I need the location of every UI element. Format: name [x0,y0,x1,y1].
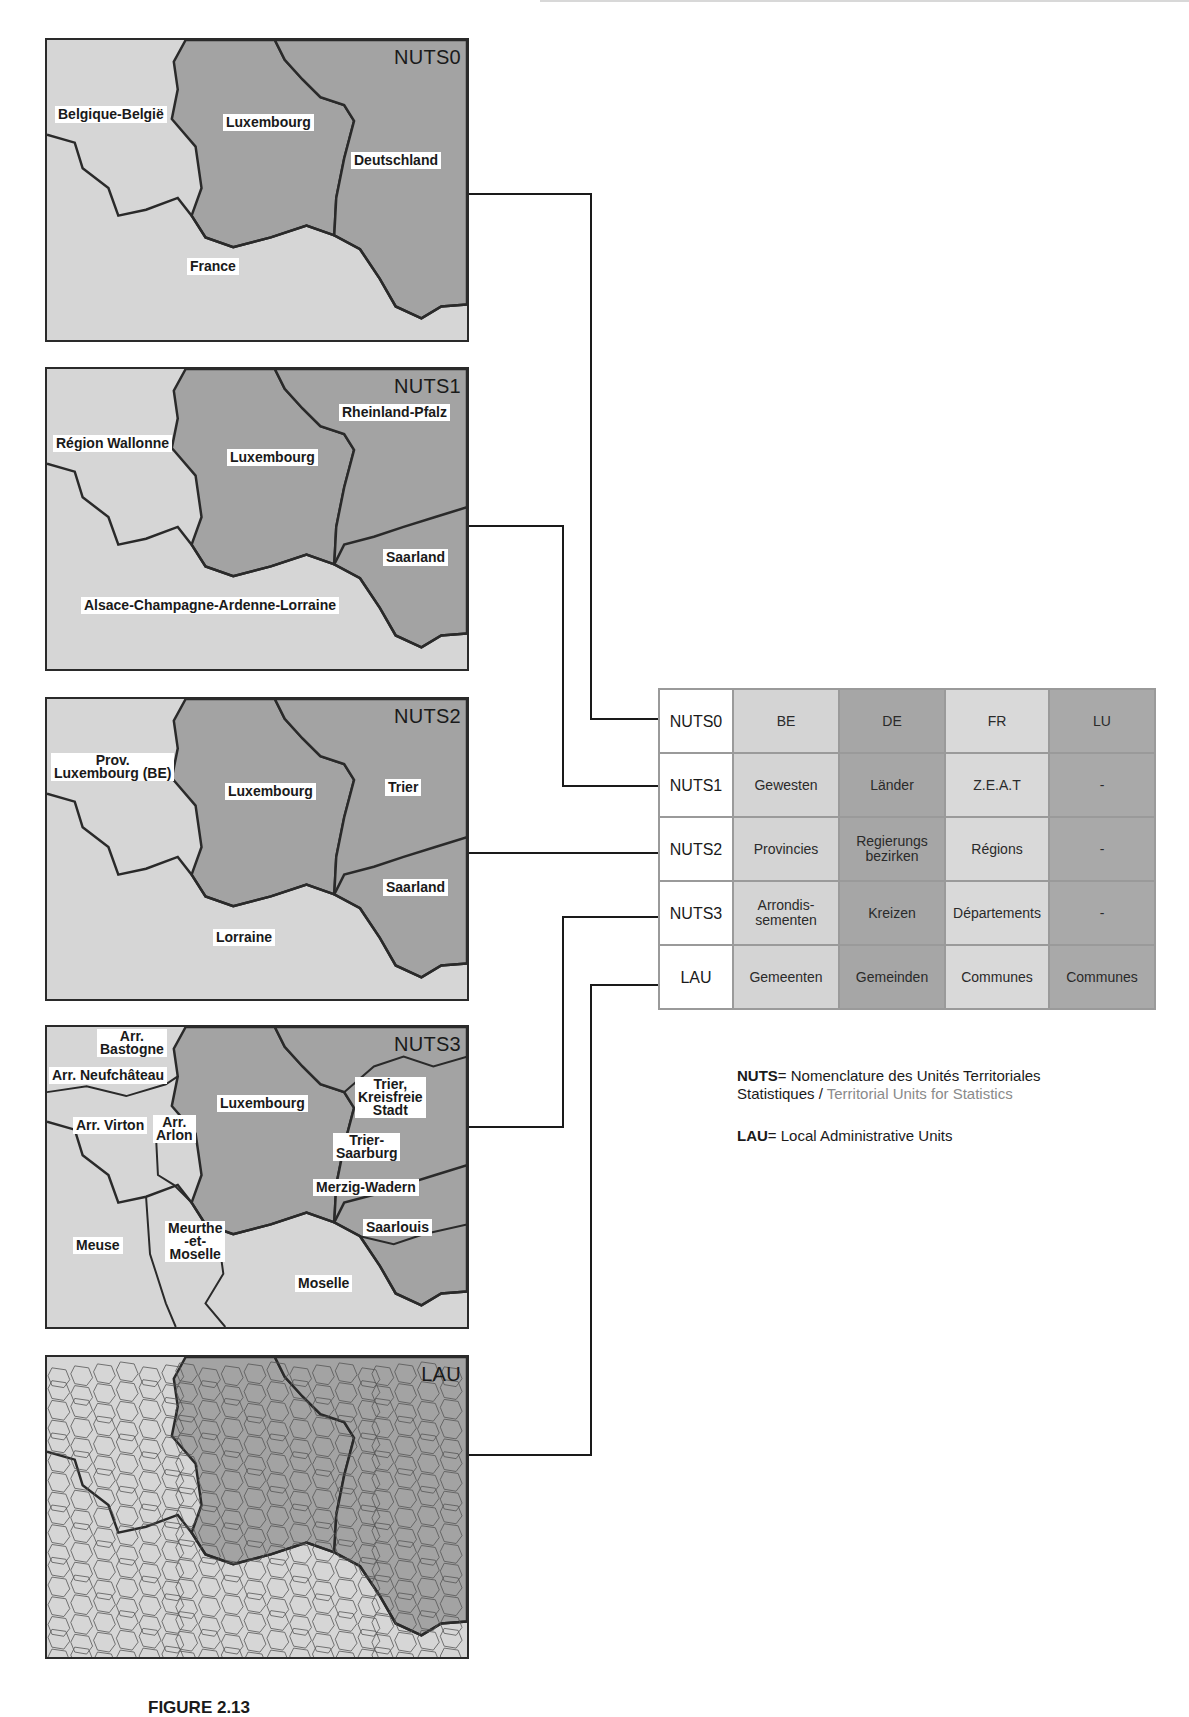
region-label: Luxembourg [225,783,316,800]
map-level-title: NUTS3 [394,1033,461,1056]
table-header-row: NUTS0 BE DE FR LU [659,689,1155,753]
table-cell: Communes [945,945,1049,1009]
region-label: Belgique-België [55,106,167,123]
connector-nuts0 [469,194,658,719]
connector-nuts1 [469,526,658,786]
map-level-title: NUTS1 [394,375,461,398]
map-level-title: NUTS2 [394,705,461,728]
region-label: Lorraine [213,929,275,946]
region-label: Trier [385,779,421,796]
region-label: Arr.Bastogne [97,1029,167,1057]
region-label: Saarlouis [363,1219,432,1236]
region-label: Arr. Virton [73,1117,147,1134]
map-level-title: LAU [421,1363,461,1386]
region-label: Trier,KreisfreieStadt [355,1077,426,1118]
connector-nuts3 [469,917,658,1127]
region-label: Luxembourg [223,114,314,131]
table-cell: Regierungsbezirken [839,817,945,881]
map-shapes [47,699,467,999]
map-shapes [47,1357,467,1657]
table-cell: - [1049,817,1155,881]
region-label: Moselle [295,1275,352,1292]
country-cell-be: BE [733,689,839,753]
map-level-title: NUTS0 [394,46,461,69]
table-cell: Régions [945,817,1049,881]
nuts-classification-table: NUTS0 BE DE FR LU NUTS1 Gewesten Länder … [658,688,1156,1010]
table-row: NUTS1 Gewesten Länder Z.E.A.T - [659,753,1155,817]
region-label: Rheinland-Pfalz [339,404,450,421]
legend-nuts-abbr: NUTS [737,1067,778,1084]
legend-nuts: NUTS= Nomenclature des Unités Territoria… [737,1067,1041,1103]
region-label: Meuse [73,1237,123,1254]
table-cell: Arrondis-sementen [733,881,839,945]
map-panel-nuts1: NUTS1 Rheinland-PfalzRégion WallonneLuxe… [45,367,469,671]
table-cell: - [1049,753,1155,817]
legend-lau: LAU= Local Administrative Units [737,1127,1041,1145]
table-cell: Kreizen [839,881,945,945]
region-label: Région Wallonne [53,435,172,452]
table-cell: Länder [839,753,945,817]
table-cell: Communes [1049,945,1155,1009]
legend-nuts-definition-en: Territorial Units for Statistics [827,1085,1013,1102]
country-cell-fr: FR [945,689,1049,753]
level-cell: LAU [659,945,733,1009]
region-label: Saarland [383,879,448,896]
country-cell-de: DE [839,689,945,753]
region-label: Arr.Arlon [153,1115,196,1143]
region-label: France [187,258,239,275]
region-label: Saarland [383,549,448,566]
region-label: Meurthe-et-Moselle [165,1221,225,1262]
top-rule [540,0,1189,2]
table-row: NUTS3 Arrondis-sementen Kreizen Départem… [659,881,1155,945]
level-cell: NUTS2 [659,817,733,881]
map-panel-nuts0: NUTS0 Belgique-BelgiëLuxembourgDeutschla… [45,38,469,342]
map-shapes [47,40,467,340]
map-panel-lau: LAU [45,1355,469,1659]
table-cell: Gewesten [733,753,839,817]
region-label: Merzig-Wadern [313,1179,419,1196]
level-cell: NUTS1 [659,753,733,817]
legend-lau-definition: = Local Administrative Units [768,1127,953,1144]
legend-nuts-definition: = Nomenclature des Unités Territoriales [778,1067,1041,1084]
table-cell: Z.E.A.T [945,753,1049,817]
region-label: Arr. Neufchâteau [49,1067,167,1084]
legend-lau-abbr: LAU [737,1127,768,1144]
table-row: LAU Gemeenten Gemeinden Communes Commune… [659,945,1155,1009]
level-cell: NUTS3 [659,881,733,945]
table-cell: Gemeinden [839,945,945,1009]
region-label: Prov.Luxembourg (BE) [51,753,174,781]
table-cell: - [1049,881,1155,945]
region-label: Deutschland [351,152,441,169]
map-panel-nuts2: NUTS2 Prov.Luxembourg (BE)LuxembourgTrie… [45,697,469,1001]
table-cell: Gemeenten [733,945,839,1009]
map-panel-nuts3: NUTS3 Arr.BastogneArr. NeufchâteauLuxemb… [45,1025,469,1329]
connector-lau [469,985,658,1455]
region-label: Luxembourg [217,1095,308,1112]
figure-caption: FIGURE 2.13 [148,1698,250,1717]
table-cell: Départements [945,881,1049,945]
table-cell: Provincies [733,817,839,881]
table-row: NUTS2 Provincies Regierungsbezirken Régi… [659,817,1155,881]
region-label: Alsace-Champagne-Ardenne-Lorraine [81,597,339,614]
legend: NUTS= Nomenclature des Unités Territoria… [737,1067,1041,1145]
country-cell-lu: LU [1049,689,1155,753]
region-label: Trier-Saarburg [333,1133,400,1161]
region-label: Luxembourg [227,449,318,466]
level-cell: NUTS0 [659,689,733,753]
legend-nuts-definition-fr: Statistiques / [737,1085,827,1102]
